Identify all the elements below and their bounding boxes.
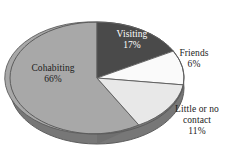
pie-label-cohabiting-name: Cohabiting (31, 63, 74, 73)
pie-label-little-value: 11% (166, 126, 228, 137)
pie-label-little-line1: Little or no (175, 104, 219, 114)
pie-label-friends-value: 6% (168, 59, 220, 70)
pie-label-visiting-value: 17% (101, 40, 163, 51)
pie-label-friends: Friends 6% (168, 48, 220, 70)
pie-label-cohabiting: Cohabiting 66% (14, 63, 92, 85)
pie-label-little-line2: contact (166, 115, 228, 126)
pie-label-cohabiting-value: 66% (14, 74, 92, 85)
pie-label-visiting-name: Visiting (117, 29, 148, 39)
pie-chart: Visiting 17% Cohabiting 66% Friends 6% L… (0, 0, 230, 163)
pie-label-visiting: Visiting 17% (101, 29, 163, 51)
pie-label-friends-name: Friends (179, 48, 208, 58)
pie-label-little-or-no-contact: Little or no contact 11% (166, 104, 228, 138)
